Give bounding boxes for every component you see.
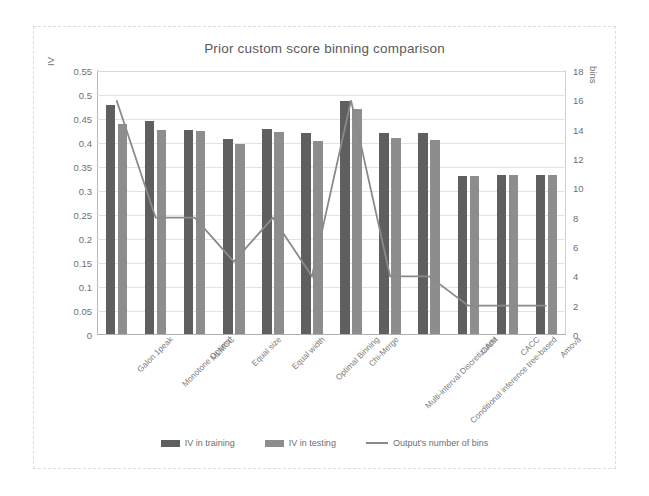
x-tick-label: Equal size: [250, 335, 283, 368]
y2-tick-label: 14: [573, 124, 584, 135]
y-tick-label: 0.25: [74, 210, 93, 221]
x-tick-label: CAIM: [479, 335, 500, 356]
y-tick-label: 0.35: [74, 162, 93, 173]
y2-tick-label: 10: [573, 183, 584, 194]
y2-tick-label: 6: [573, 242, 578, 253]
y2-tick-label: 2: [573, 300, 578, 311]
legend-line-icon-bins: [366, 442, 388, 444]
y2-tick-label: 16: [573, 95, 584, 106]
bins-line-series: [97, 70, 566, 335]
y-tick-label: 0.5: [79, 90, 92, 101]
legend-swatch-icon-training: [161, 440, 180, 447]
y2-tick-label: 18: [573, 66, 584, 77]
y-tick-label: 0.05: [74, 306, 93, 317]
legend-item-iv-testing: IV in testing: [265, 438, 336, 448]
y2-tick-label: 8: [573, 212, 578, 223]
legend-label-iv-testing: IV in testing: [289, 438, 336, 448]
chart-frame: Prior custom score binning comparison IV…: [33, 26, 616, 469]
legend-label-iv-training: IV in training: [185, 438, 235, 448]
legend-item-iv-training: IV in training: [161, 438, 235, 448]
y-tick-label: 0.4: [79, 138, 92, 149]
y-axis-title: IV: [45, 57, 56, 66]
y2-tick-label: 12: [573, 154, 584, 165]
y-tick-label: 0.45: [74, 114, 93, 125]
y-tick-label: 0.1: [79, 282, 92, 293]
chart-legend: IV in training IV in testing Output's nu…: [34, 438, 615, 448]
x-tick-label: Galon 1peak: [135, 335, 174, 374]
y-tick-label: 0.55: [74, 66, 93, 77]
plot-area: IV bins 00.050.10.150.20.250.30.350.40.4…: [97, 70, 566, 335]
x-tick-label: Equal width: [290, 335, 326, 371]
x-tick-label: Amova: [559, 335, 583, 359]
legend-swatch-icon-testing: [265, 440, 284, 447]
y2-axis-title: bins: [588, 66, 599, 83]
legend-item-bins-line: Output's number of bins: [366, 438, 488, 448]
bins-polyline: [117, 100, 547, 305]
y-tick-label: 0.2: [79, 234, 92, 245]
y-tick-label: 0.3: [79, 186, 92, 197]
legend-label-bins: Output's number of bins: [393, 438, 488, 448]
x-axis-category-labels: Galon 1peakMonotone OptimalMLMCCEqual si…: [97, 335, 566, 430]
chart-title: Prior custom score binning comparison: [34, 41, 615, 56]
y2-tick-label: 4: [573, 271, 578, 282]
y-tick-label: 0.15: [74, 258, 93, 269]
y-tick-label: 0: [87, 330, 92, 341]
